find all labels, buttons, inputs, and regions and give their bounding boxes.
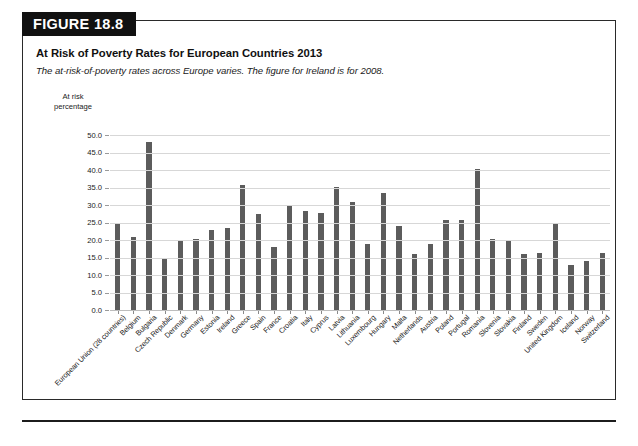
gridline <box>110 135 610 136</box>
bar <box>412 254 417 310</box>
bar <box>131 237 136 310</box>
bar <box>303 211 308 310</box>
bar <box>318 213 323 310</box>
y-tick-mark <box>105 170 109 171</box>
bar <box>459 220 464 310</box>
y-tick-label: 45.0 <box>60 148 102 157</box>
figure-badge-label: FIGURE 18.8 <box>33 16 123 32</box>
gridline <box>110 275 610 276</box>
y-tick-mark <box>105 293 109 294</box>
gridline <box>110 293 610 294</box>
bar <box>537 253 542 310</box>
y-tick-mark <box>105 223 109 224</box>
figure-root: FIGURE 18.8 At Risk of Poverty Rates for… <box>0 0 638 446</box>
plot-canvas <box>110 135 610 310</box>
bar <box>350 202 355 310</box>
y-tick-label: 20.0 <box>60 236 102 245</box>
y-tick-label: 15.0 <box>60 253 102 262</box>
x-tick-label: European Union (28 countries) <box>53 313 128 388</box>
y-tick-label: 40.0 <box>60 166 102 175</box>
y-tick-mark <box>105 275 109 276</box>
bar <box>568 265 573 311</box>
y-tick-mark <box>105 188 109 189</box>
y-tick-mark <box>105 153 109 154</box>
bar <box>256 214 261 310</box>
footer-rule <box>22 420 616 422</box>
bar <box>443 220 448 310</box>
x-tick-mark <box>212 311 213 314</box>
bar <box>365 244 370 311</box>
bar <box>396 226 401 310</box>
bar <box>600 253 605 310</box>
x-axis-labels: European Union (28 countries)BelgiumBulg… <box>110 311 610 406</box>
gridline <box>110 188 610 189</box>
y-tick-label: 35.0 <box>60 183 102 192</box>
x-tick-mark <box>462 311 463 314</box>
gridline <box>110 170 610 171</box>
y-tick-label: 30.0 <box>60 201 102 210</box>
y-tick-label: 25.0 <box>60 218 102 227</box>
y-tick-mark <box>105 135 109 136</box>
y-tick-label: 5.0 <box>60 288 102 297</box>
y-tick-mark <box>105 240 109 241</box>
bar <box>553 223 558 310</box>
figure-badge: FIGURE 18.8 <box>22 12 136 36</box>
gridline <box>110 258 610 259</box>
bar <box>240 185 245 310</box>
y-tick-mark <box>105 205 109 206</box>
y-tick-mark <box>105 310 109 311</box>
x-tick-mark <box>337 311 338 314</box>
bar <box>209 230 214 311</box>
bar <box>271 247 276 310</box>
bar <box>584 261 589 310</box>
y-tick-label: 0.0 <box>60 306 102 315</box>
y-tick-label: 50.0 <box>60 131 102 140</box>
gridline <box>110 205 610 206</box>
bar <box>428 244 433 310</box>
gridline <box>110 153 610 154</box>
gridline <box>110 240 610 241</box>
bar <box>146 142 151 310</box>
y-tick-label: 10.0 <box>60 271 102 280</box>
y-tick-mark <box>105 258 109 259</box>
gridline <box>110 223 610 224</box>
bar <box>115 224 120 310</box>
bar <box>521 254 526 310</box>
chart-plot-area: 50.045.040.035.030.025.020.015.010.05.00… <box>0 0 638 446</box>
bar <box>162 259 167 310</box>
x-tick-mark <box>587 311 588 314</box>
